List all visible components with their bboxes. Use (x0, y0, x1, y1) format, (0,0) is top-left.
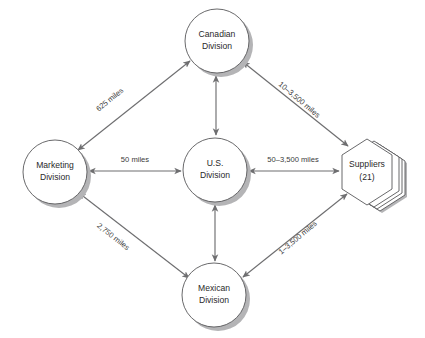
node-us-division[interactable]: U.S. Division (183, 138, 251, 206)
network-diagram-canvas: 625 miles 10–3,500 miles 2,750 miles 1–3… (0, 0, 425, 338)
edge-line-canadian-suppliers (243, 62, 348, 146)
node-mexican-division[interactable]: Mexican Division (182, 263, 250, 331)
suppliers-label-line1: Suppliers (349, 159, 385, 169)
edge-label-mexican-suppliers: 1–3,500 miles (277, 219, 319, 256)
mexican-division-label-line2: Division (199, 295, 229, 305)
diagram-svg: 625 miles 10–3,500 miles 2,750 miles 1–3… (0, 0, 425, 338)
us-division-label-line1: U.S. (207, 158, 224, 168)
edge-line-marketing-mexican (79, 193, 189, 278)
edge-us-suppliers: 50–3,500 miles (249, 155, 339, 171)
us-division-label-line2: Division (200, 170, 230, 180)
node-canadian-division[interactable]: Canadian Division (185, 9, 253, 77)
edge-label-marketing-canadian: 625 miles (94, 86, 125, 114)
edge-mexican-suppliers: 1–3,500 miles (243, 194, 347, 277)
marketing-division-label-line2: Division (40, 172, 70, 182)
edge-canadian-suppliers: 10–3,500 miles (243, 62, 348, 146)
mexican-division-label-line1: Mexican (198, 283, 230, 293)
edge-label-us-suppliers: 50–3,500 miles (267, 155, 319, 164)
edge-label-marketing-mexican: 2,750 miles (95, 221, 131, 252)
edge-marketing-mexican: 2,750 miles (79, 193, 189, 278)
edge-label-marketing-us: 50 miles (121, 155, 149, 164)
marketing-division-label-line1: Marketing (36, 160, 74, 170)
edge-marketing-us: 50 miles (89, 155, 181, 171)
nodes-layer: Canadian Division Marketing Division U.S… (23, 9, 407, 331)
node-marketing-division[interactable]: Marketing Division (23, 140, 91, 208)
suppliers-label-line2: (21) (359, 172, 374, 182)
node-suppliers[interactable]: Suppliers (21) (342, 139, 407, 213)
canadian-division-label-line1: Canadian (199, 29, 236, 39)
edge-marketing-canadian: 625 miles (78, 61, 190, 150)
edge-label-canadian-suppliers: 10–3,500 miles (277, 80, 322, 120)
canadian-division-label-line2: Division (202, 41, 232, 51)
